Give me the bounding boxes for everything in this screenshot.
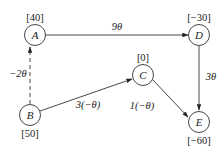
node-e-supply: [−60] (187, 136, 210, 147)
edge-a-to-d-label: 9θ (112, 22, 122, 33)
edge-d-to-e-label: 3θ (206, 72, 216, 83)
node-e-label: E (196, 117, 203, 128)
edge-b-to-a-label: −2θ (9, 69, 27, 80)
node-a-supply: [40] (26, 13, 44, 24)
node-b-label: B (27, 110, 34, 121)
node-d-label: D (195, 30, 203, 41)
node-a-label: A (32, 30, 39, 41)
network-diagram: A B C D E [40] [50] [0] [−30] [−60] 9θ −… (0, 0, 224, 149)
edge-c-to-e (153, 80, 188, 117)
node-c-label: C (139, 70, 146, 81)
edge-b-to-c-label: 3(−θ) (76, 100, 101, 111)
edge-c-to-e-label: 1(−θ) (130, 101, 155, 112)
node-b-supply: [50] (21, 129, 39, 140)
node-c-supply: [0] (137, 53, 149, 64)
node-d-supply: [−30] (187, 13, 210, 24)
